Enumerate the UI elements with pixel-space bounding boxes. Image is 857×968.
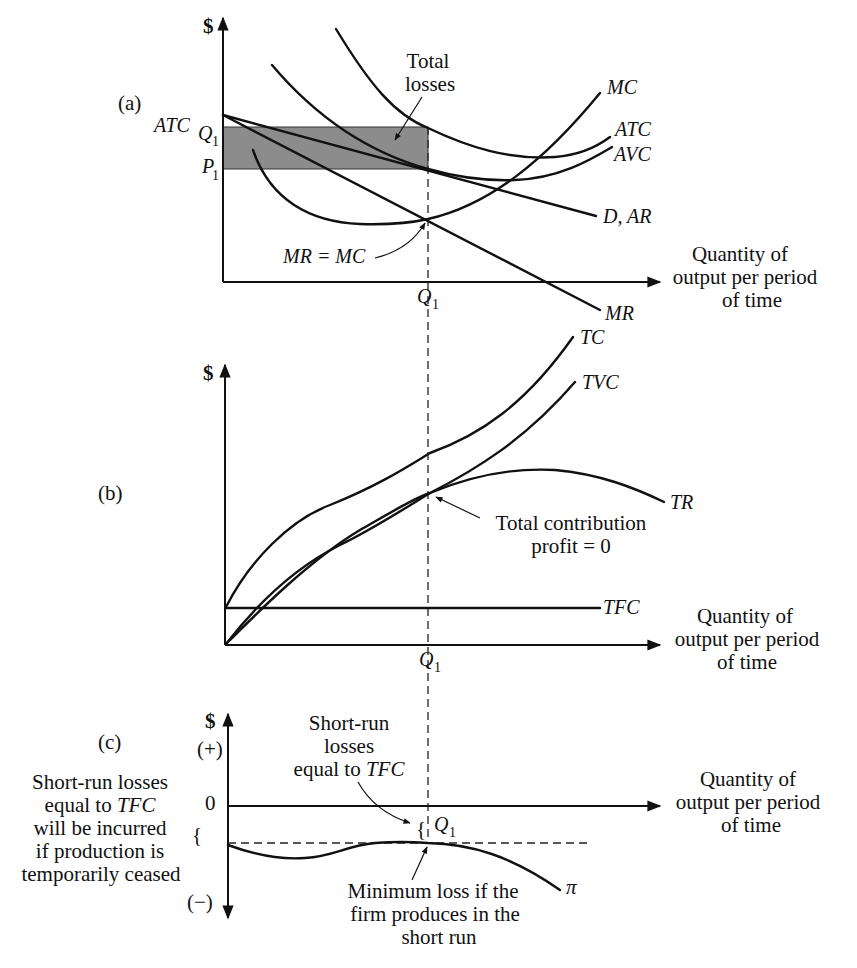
left-note-line4: if production is bbox=[36, 839, 164, 863]
mr-mc-label: MR = MC bbox=[282, 245, 366, 267]
top-note-arrow bbox=[358, 782, 410, 823]
y-zero-label: 0 bbox=[205, 791, 216, 815]
left-note-line5: temporarily ceased bbox=[21, 862, 181, 886]
y-axis-label-c: $ bbox=[205, 709, 216, 733]
y-axis-label-a: $ bbox=[203, 14, 214, 38]
mc-label: MC bbox=[606, 76, 638, 98]
top-note-line1: Short-run bbox=[309, 711, 390, 735]
tc-label: TC bbox=[580, 326, 605, 348]
bottom-note-arrow bbox=[412, 847, 427, 880]
left-note-line3: will be incurred bbox=[34, 816, 167, 840]
total-losses-label-line1: Total bbox=[407, 49, 450, 73]
x-axis-label-a-line1: Quantity of bbox=[692, 242, 788, 266]
top-note-line3-italic: TFC bbox=[366, 757, 406, 781]
p1-sub: 1 bbox=[212, 168, 219, 183]
q1-label-c: Q bbox=[434, 813, 449, 835]
x-axis-label-b-line2: output per period bbox=[675, 627, 820, 651]
x-axis-label-a-line2: output per period bbox=[673, 265, 818, 289]
left-note-line2-prefix: equal to bbox=[45, 793, 117, 817]
avc-label: AVC bbox=[612, 143, 651, 165]
left-note-line2: equal to TFC bbox=[45, 793, 157, 817]
top-note-line3: equal to TFC bbox=[294, 757, 406, 781]
y-plus-label: (+) bbox=[197, 737, 223, 761]
left-note-line2-italic: TFC bbox=[117, 793, 157, 817]
q1-sub-b: 1 bbox=[434, 660, 441, 675]
x-axis-label-c-line1: Quantity of bbox=[700, 767, 796, 791]
atc-q1-sub-letter: Q bbox=[198, 122, 213, 144]
pi-label: π bbox=[566, 875, 577, 899]
x-axis-label-c-line2: output per period bbox=[676, 790, 821, 814]
left-note-line1: Short-run losses bbox=[32, 770, 168, 794]
y-axis-label-b: $ bbox=[203, 361, 214, 385]
panel-a: (a) $ MC ATC AVC D, AR MR ATC Q 1 P 1 Q … bbox=[118, 14, 818, 843]
tc-curve bbox=[226, 337, 573, 607]
contribution-arrow bbox=[436, 497, 480, 518]
contribution-label-line1: Total contribution bbox=[496, 511, 647, 535]
panel-c: (c) $ (+) 0 (−) { π { Q 1 Quantity of ou… bbox=[21, 709, 820, 949]
bottom-note-line2: firm produces in the bbox=[350, 902, 520, 926]
tfc-label: TFC bbox=[603, 596, 640, 618]
tr-label: TR bbox=[670, 491, 693, 513]
contribution-label-line2: profit = 0 bbox=[531, 534, 611, 558]
economics-figure: (a) $ MC ATC AVC D, AR MR ATC Q 1 P 1 Q … bbox=[0, 0, 857, 968]
atc-q1-sub-num: 1 bbox=[212, 134, 219, 149]
left-brace: { bbox=[192, 823, 202, 847]
panel-b-label: (b) bbox=[98, 481, 123, 505]
x-axis-label-b-line3: of time bbox=[717, 650, 777, 674]
x-axis-label-c-line3: of time bbox=[721, 813, 781, 837]
panel-b: (b) $ TC TVC TR TFC Q 1 Quantity of outp… bbox=[98, 326, 820, 675]
total-losses-label-line2: losses bbox=[405, 72, 455, 96]
mr-label: MR bbox=[604, 302, 634, 324]
d-ar-label: D, AR bbox=[602, 205, 652, 227]
q1-label-a: Q bbox=[417, 285, 432, 307]
q1-sub-c: 1 bbox=[449, 825, 456, 840]
q1-brace: { bbox=[416, 817, 426, 841]
panel-a-label: (a) bbox=[118, 91, 141, 115]
y-minus-label: (−) bbox=[187, 890, 213, 914]
q1-label-b: Q bbox=[419, 648, 434, 670]
x-axis-label-a-line3: of time bbox=[722, 288, 782, 312]
tvc-label: TVC bbox=[582, 371, 619, 393]
top-note-line2: losses bbox=[324, 734, 374, 758]
atc-q1-label: ATC bbox=[152, 114, 191, 136]
atc-label: ATC bbox=[613, 118, 652, 140]
top-note-line3-prefix: equal to bbox=[294, 757, 366, 781]
panel-c-label: (c) bbox=[98, 730, 121, 754]
bottom-note-line3: short run bbox=[401, 925, 477, 949]
x-axis-label-b-line1: Quantity of bbox=[697, 604, 793, 628]
q1-sub-a: 1 bbox=[432, 297, 439, 312]
mr-mc-arrow bbox=[375, 223, 425, 258]
bottom-note-line1: Minimum loss if the bbox=[348, 879, 519, 903]
